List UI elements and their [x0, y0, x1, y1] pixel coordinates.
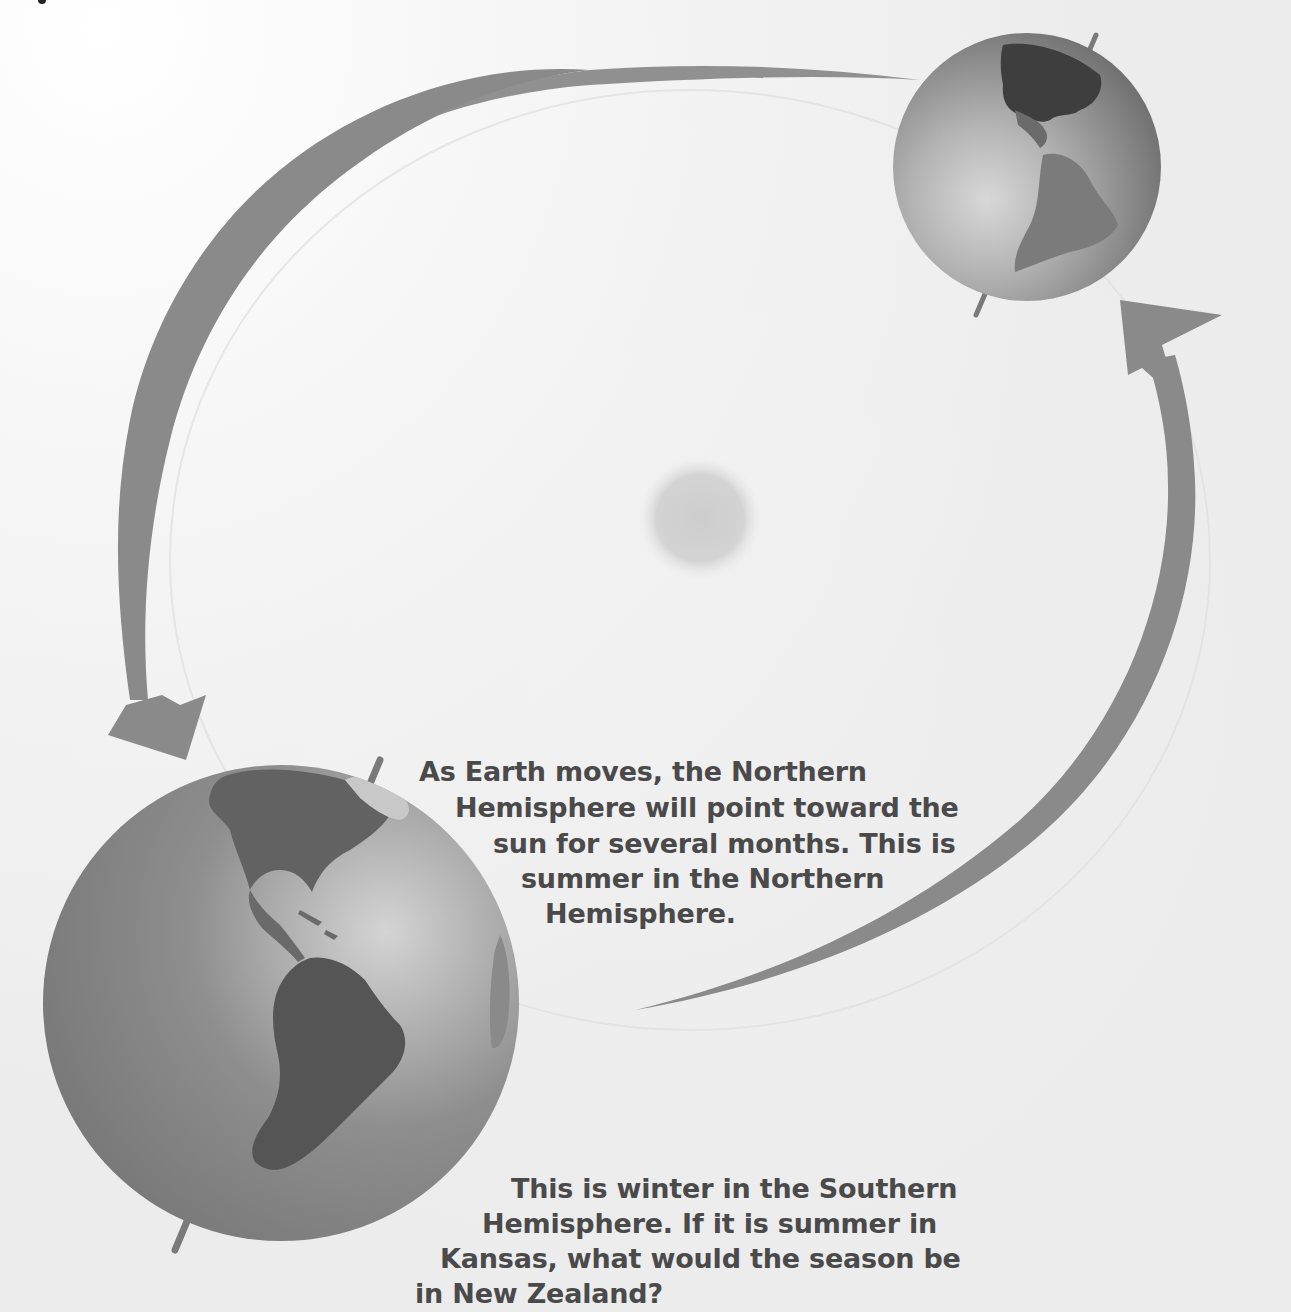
arrow-top-left: [108, 66, 920, 760]
earth-far: [893, 33, 1175, 315]
caption-line: This is winter in the Southern: [511, 1172, 957, 1206]
caption-line: Kansas, what would the season be: [440, 1242, 961, 1276]
caption-line: As Earth moves, the Northern: [419, 755, 867, 789]
sun: [638, 456, 762, 580]
earth-near: [43, 760, 519, 1250]
caption-line: Hemisphere.: [545, 897, 736, 931]
caption-line: summer in the Northern: [521, 862, 884, 896]
caption-line: Hemisphere. If it is summer in: [482, 1207, 937, 1241]
caption-line: in New Zealand?: [415, 1277, 663, 1311]
orbit-diagram: [0, 0, 1291, 1312]
caption-line: Hemisphere will point toward the: [455, 791, 959, 825]
caption-line: sun for several months. This is: [493, 827, 956, 861]
